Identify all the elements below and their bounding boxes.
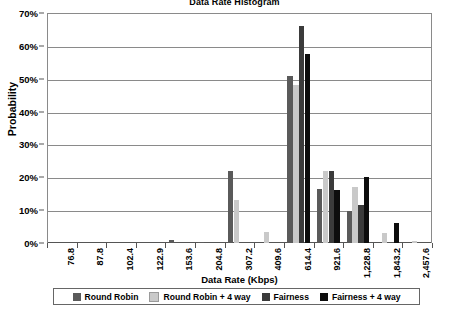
x-axis-label: 122.9 (155, 248, 165, 271)
legend-label: Round Robin (85, 292, 139, 302)
legend-label: Fairness (274, 292, 309, 302)
bar-groups (47, 13, 432, 243)
y-axis-tick (39, 45, 44, 46)
bar (352, 187, 357, 243)
legend-item[interactable]: Fairness (262, 292, 309, 302)
y-axis-label: 30% (19, 139, 38, 150)
bar-group (77, 13, 107, 243)
bar-group (106, 13, 136, 243)
bar-group (195, 13, 225, 243)
x-axis-tick (432, 243, 433, 248)
y-axis-title: Probability (6, 63, 18, 155)
x-axis-label: 409.6 (273, 248, 283, 271)
legend-swatch-icon (149, 292, 159, 302)
y-axis-tick (39, 111, 44, 112)
x-axis-label: 614.4 (303, 248, 313, 271)
bar-group (225, 13, 255, 243)
bar (347, 211, 352, 243)
bar (305, 54, 310, 243)
x-axis-label: 204.8 (214, 248, 224, 271)
y-axis-tick (39, 243, 44, 244)
bar (323, 171, 328, 243)
legend-item[interactable]: Fairness + 4 way (320, 292, 401, 302)
legend-swatch-icon (73, 293, 81, 301)
bar (317, 189, 322, 243)
bar (234, 200, 239, 243)
y-axis-tick (39, 78, 44, 79)
legend-item[interactable]: Round Robin + 4 way (149, 292, 250, 302)
bar-group (373, 13, 403, 243)
y-axis-label: 40% (19, 106, 38, 117)
bar (334, 190, 339, 243)
bar-group (284, 13, 314, 243)
bar (358, 205, 363, 243)
bar-group (314, 13, 344, 243)
bar (228, 171, 233, 243)
bar-group (165, 13, 195, 243)
y-axis-tick (39, 177, 44, 178)
bar-group (136, 13, 166, 243)
y-axis-tick (39, 144, 44, 145)
bar (293, 85, 298, 243)
bar (299, 26, 304, 243)
x-axis-label: 102.4 (125, 248, 135, 271)
y-axis-tick (39, 210, 44, 211)
y-axis-label: 60% (19, 40, 38, 51)
legend-swatch-icon (320, 293, 328, 301)
bar-group (47, 13, 77, 243)
x-axis-label: 307.2 (244, 248, 254, 271)
bar-group (402, 13, 432, 243)
y-axis-label: 70% (19, 8, 38, 19)
y-axis-label: 10% (19, 205, 38, 216)
y-axis-label: 0% (24, 238, 38, 249)
chart-legend: Round RobinRound Robin + 4 wayFairnessFa… (53, 288, 420, 305)
legend-label: Fairness + 4 way (332, 292, 401, 302)
bar-group (254, 13, 284, 243)
bar (287, 76, 292, 243)
chart-title: Data Rate Histogram (0, 0, 469, 7)
x-axis-title: Data Rate (Kbps) (47, 274, 432, 285)
bar (364, 177, 369, 243)
bar (382, 233, 387, 243)
x-axis-label: 921.6 (332, 248, 342, 271)
x-axis-label: 76.8 (66, 248, 76, 266)
y-axis-tick (39, 13, 44, 14)
y-axis-label: 20% (19, 172, 38, 183)
x-axis-label: 87.8 (95, 248, 105, 266)
legend-item[interactable]: Round Robin (73, 292, 139, 302)
x-axis-label: 153.6 (184, 248, 194, 271)
legend-swatch-icon (262, 293, 270, 301)
y-axis-label: 50% (19, 73, 38, 84)
chart-root: Data Rate Histogram 0%10%20%30%40%50%60%… (0, 0, 469, 310)
bar (394, 223, 399, 243)
bar (264, 232, 269, 243)
bar (329, 171, 334, 243)
bar-group (343, 13, 373, 243)
legend-label: Round Robin + 4 way (163, 292, 250, 302)
